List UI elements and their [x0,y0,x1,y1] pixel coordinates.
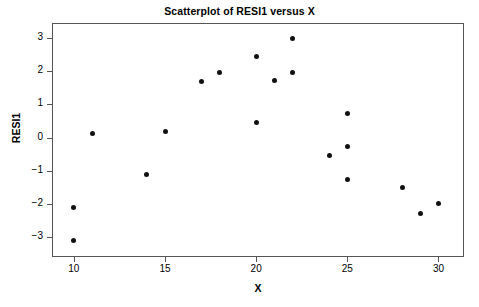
scatterplot-figure: Scatterplot of RESI1 versus X 1015202530… [0,0,479,307]
y-axis-tick [47,104,52,105]
y-axis-tick [47,204,52,205]
y-axis-tick [47,237,52,238]
x-axis-tick [347,257,348,262]
y-axis-title: RESI1 [10,88,22,168]
y-axis-tick-label: 3 [7,31,43,42]
y-axis-tick [47,138,52,139]
x-axis-tick-label: 15 [145,263,185,274]
x-axis-tick [165,257,166,262]
x-axis-tick [438,257,439,262]
y-axis-tick-label: −3 [7,230,43,241]
y-axis-tick-label: −2 [7,197,43,208]
y-axis-tick [47,71,52,72]
x-axis-tick-label: 25 [327,263,367,274]
plot-frame [52,23,464,257]
x-axis-tick-label: 30 [418,263,458,274]
x-axis-tick-label: 10 [54,263,94,274]
x-axis-tick-label: 20 [236,263,276,274]
x-axis-tick [256,257,257,262]
y-axis-tick [47,171,52,172]
x-axis-title: X [52,282,464,294]
y-axis-tick-label: 2 [7,64,43,75]
chart-title: Scatterplot of RESI1 versus X [0,5,479,17]
x-axis-tick [74,257,75,262]
y-axis-tick [47,38,52,39]
